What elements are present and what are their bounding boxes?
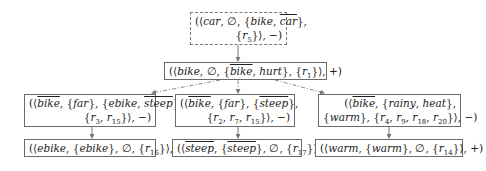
node-label-line: {warm}, {r4, r9, r18, r20}⟩, −) [323,110,456,124]
node-label-line: (⟨bike, ∅, {bike, hurt}, {r1}⟩, +) [169,64,322,78]
node-label-line: (⟨bike, {far}, {steep}, [180,96,290,110]
node-label-line: (⟨steep, {steep}, ∅, {r17}⟩, +) [177,141,297,155]
node-label-line: {r2, r7, r15}⟩, −) [180,110,290,124]
node-ebike: (⟨ebike, {ebike}, ∅, {r16}⟩, +) [24,139,156,157]
node-bike: (⟨bike, ∅, {bike, hurt}, {r1}⟩, +) [164,62,327,80]
node-label-line: (⟨warm, {warm}, ∅, {r14}⟩, +) [320,141,458,155]
edge-bike-ebike-rule [152,80,220,93]
node-warm-rule: (⟨bike, {rainy, heat},{warm}, {r4, r9, r… [318,94,461,127]
node-warm: (⟨warm, {warm}, ∅, {r14}⟩, +) [315,139,463,157]
node-label-line: (⟨bike, {rainy, heat}, [323,96,456,110]
node-label-line: (⟨bike, {far}, {ebike, steep}, [29,96,151,110]
node-ebike-rule: (⟨bike, {far}, {ebike, steep},{r3, r15}⟩… [24,94,156,127]
node-root-car: (⟨car, ∅, {bike, car},{r5}⟩, −) [190,12,287,45]
node-steep-rule: (⟨bike, {far}, {steep},{r2, r7, r15}⟩, −… [175,94,295,127]
edge-bike-warm-rule [275,80,324,93]
node-label-line: {r5}⟩, −) [195,28,282,42]
node-label-line: (⟨car, ∅, {bike, car}, [195,14,282,28]
node-label-line: {r3, r15}⟩, −) [29,110,151,124]
node-steep: (⟨steep, {steep}, ∅, {r17}⟩, +) [172,139,302,157]
node-label-line: (⟨ebike, {ebike}, ∅, {r16}⟩, +) [29,141,151,155]
